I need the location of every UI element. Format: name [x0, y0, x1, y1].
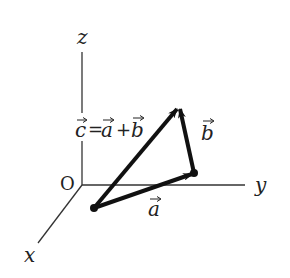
- vector-b: [180, 109, 194, 173]
- x-axis-label: x: [24, 243, 35, 267]
- equation-b: b: [131, 118, 144, 142]
- y-axis-label: y: [254, 173, 267, 197]
- vector-b-label: b: [201, 121, 214, 145]
- origin-label: O: [60, 173, 75, 194]
- vector-b-label-group: b: [201, 119, 214, 146]
- vector-a-label-group: a: [148, 197, 161, 222]
- z-axis-label: z: [76, 25, 88, 49]
- point-joint: [190, 169, 198, 177]
- point-tail: [90, 204, 98, 212]
- vector-diagram: z y x O a b c = a + b: [0, 0, 290, 278]
- equation-label: c = a + b: [75, 116, 144, 143]
- equation-plus: +: [116, 119, 131, 140]
